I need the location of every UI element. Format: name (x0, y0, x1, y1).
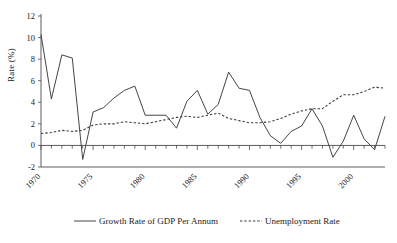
x-tick-label: 1990 (232, 171, 251, 190)
y-tick-label: 8 (31, 54, 35, 64)
legend-label-unemployment: Unemployment Rate (265, 216, 340, 226)
y-tick-label: -2 (28, 162, 35, 172)
x-tick-label: 1985 (180, 171, 199, 190)
chart-legend: Growth Rate of GDP Per Annum Unemploymen… (74, 216, 340, 226)
x-tick-label: 1980 (128, 171, 147, 190)
axis-lines (41, 14, 385, 167)
series-line-gdp-growth (41, 34, 385, 159)
y-tick-label: 0 (31, 140, 35, 150)
y-axis-ticks: -2024681012 (27, 11, 42, 172)
legend-label-gdp-growth: Growth Rate of GDP Per Annum (99, 216, 218, 226)
chart-plot-area: -2024681012 1970197519801985199019952000… (0, 0, 397, 243)
y-tick-label: 4 (31, 97, 36, 107)
chart-figure: Rate (%) -2024681012 1970197519801985199… (0, 0, 397, 243)
x-tick-label: 1995 (284, 171, 303, 190)
data-series-group (41, 34, 385, 159)
series-line-unemployment (41, 87, 385, 133)
y-tick-label: 10 (27, 33, 36, 43)
y-tick-label: 6 (31, 76, 35, 86)
y-tick-label: 12 (27, 11, 36, 21)
x-tick-label: 1970 (23, 171, 42, 190)
x-tick-label: 1975 (75, 171, 94, 190)
y-tick-label: 2 (31, 119, 35, 129)
x-tick-label: 2000 (336, 171, 355, 190)
